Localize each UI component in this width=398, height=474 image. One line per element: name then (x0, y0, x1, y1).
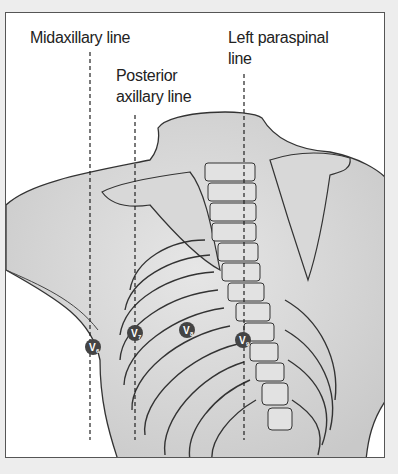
midaxillary-line-label: Midaxillary line (30, 28, 130, 47)
posterior-axillary-line-label-2: axillary line (116, 87, 191, 106)
svg-text:V: V (89, 342, 96, 353)
electrode-v9: V9 (235, 332, 251, 348)
electrode-v7: V7 (127, 325, 143, 341)
svg-text:V: V (131, 328, 138, 339)
svg-text:V: V (239, 335, 246, 346)
electrode-v6: V6 (85, 339, 101, 355)
left-paraspinal-line-label-1: Left paraspinal (228, 28, 328, 47)
posterior-axillary-line-label-1: Posterior (116, 66, 177, 85)
svg-text:V: V (183, 325, 190, 336)
left-paraspinal-line-label-2: line (228, 49, 252, 68)
electrode-v8: V8 (179, 322, 195, 338)
posterior-torso-illustration: V6 V7 V8 V9 (0, 0, 398, 474)
